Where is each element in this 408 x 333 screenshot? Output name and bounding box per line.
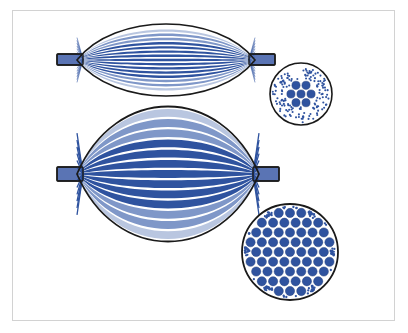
interstitial-dot	[291, 108, 293, 110]
interstitial-dot	[283, 295, 285, 297]
muscle-fiber-dot	[302, 218, 311, 227]
interstitial-dot	[322, 96, 324, 98]
interstitial-dot	[316, 97, 318, 99]
interstitial-dot	[322, 85, 324, 87]
interstitial-dot	[296, 78, 298, 80]
interstitial-dot	[282, 86, 284, 88]
interstitial-dot	[324, 89, 326, 91]
muscle-fiber-dot	[319, 228, 328, 237]
muscle-fiber-dot	[302, 277, 311, 286]
muscle-fiber-dot	[257, 238, 266, 247]
interstitial-dot	[265, 289, 267, 291]
interstitial-dot	[325, 103, 327, 105]
muscle-fiber-dot	[292, 81, 300, 89]
interstitial-dot	[299, 108, 301, 110]
interstitial-dot	[310, 71, 312, 73]
interstitial-dot	[317, 105, 319, 107]
interstitial-dot	[314, 103, 316, 105]
muscle-hypertrophy-diagram: Skeletal muscle hypertrophy comparison d…	[0, 0, 408, 333]
interstitial-dot	[287, 103, 289, 105]
muscle-fiber-dot	[285, 267, 294, 276]
muscle-fiber-dot	[268, 238, 277, 247]
interstitial-dot	[324, 87, 326, 89]
muscle-fiber-dot	[252, 267, 261, 276]
interstitial-dot	[304, 74, 306, 76]
muscle-fiber-dot	[252, 247, 261, 256]
interstitial-dot	[284, 73, 286, 75]
interstitial-dot	[280, 99, 282, 101]
interstitial-dot	[270, 212, 272, 214]
interstitial-dot	[321, 93, 323, 95]
interstitial-dot	[319, 89, 321, 91]
muscle-fiber-dot	[268, 277, 277, 286]
interstitial-dot	[313, 289, 315, 291]
interstitial-dot	[287, 74, 289, 76]
interstitial-dot	[313, 287, 315, 289]
interstitial-dot	[298, 116, 300, 118]
interstitial-dot	[279, 110, 281, 112]
interstitial-dot	[287, 73, 289, 75]
interstitial-dot	[246, 247, 248, 249]
interstitial-dot	[295, 116, 297, 118]
interstitial-dot	[264, 215, 266, 217]
muscle-fiber-dot	[285, 286, 294, 295]
interstitial-dot	[281, 104, 283, 106]
interstitial-dot	[287, 77, 289, 79]
interstitial-dot	[327, 98, 329, 100]
interstitial-dot	[326, 94, 328, 96]
interstitial-dot	[292, 111, 294, 113]
muscle-fiber-dot	[291, 257, 300, 266]
interstitial-dot	[290, 106, 292, 108]
interstitial-dot	[275, 100, 277, 102]
interstitial-dot	[331, 248, 333, 250]
interstitial-dot	[283, 103, 285, 105]
interstitial-dot	[288, 85, 290, 87]
interstitial-dot	[245, 254, 247, 256]
interstitial-dot	[303, 112, 305, 114]
interstitial-dot	[322, 87, 324, 89]
muscle-fiber-dot	[274, 228, 283, 237]
interstitial-dot	[295, 295, 297, 297]
interstitial-dot	[308, 212, 310, 214]
muscle-fiber-dot	[308, 267, 317, 276]
interstitial-dot	[307, 118, 309, 120]
interstitial-dot	[323, 78, 325, 80]
interstitial-dot	[310, 76, 312, 78]
panel-hypertrophied-muscle	[57, 107, 338, 301]
muscle-fiber-dot	[319, 267, 328, 276]
interstitial-dot	[309, 215, 311, 217]
interstitial-dot	[277, 78, 279, 80]
interstitial-dot	[268, 213, 270, 215]
muscle-fiber-dot	[291, 218, 300, 227]
interstitial-dot	[325, 96, 327, 98]
interstitial-dot	[313, 80, 315, 82]
muscle-fiber-dot	[308, 228, 317, 237]
interstitial-dot	[330, 252, 332, 254]
interstitial-dot	[248, 232, 250, 234]
muscle-fiber-dot	[274, 247, 283, 256]
interstitial-dot	[305, 70, 307, 72]
muscle-fiber-dot	[314, 238, 323, 247]
interstitial-dot	[310, 290, 312, 292]
interstitial-dot	[285, 115, 287, 117]
interstitial-dot	[285, 296, 287, 298]
interstitial-dot	[248, 250, 250, 252]
interstitial-dot	[322, 101, 324, 103]
interstitial-dot	[281, 77, 283, 79]
interstitial-dot	[321, 108, 323, 110]
interstitial-dot	[324, 222, 326, 224]
muscle-fiber-dot	[307, 90, 315, 98]
muscle-fiber-dot	[280, 238, 289, 247]
interstitial-dot	[276, 103, 278, 105]
interstitial-dot	[289, 104, 291, 106]
muscle-fiber-dot	[285, 228, 294, 237]
interstitial-dot	[314, 77, 316, 79]
interstitial-dot	[290, 115, 292, 117]
interstitial-dot	[281, 93, 283, 95]
interstitial-dot	[302, 116, 304, 118]
interstitial-dot	[319, 80, 321, 82]
muscle-fiber-dot	[297, 90, 305, 98]
interstitial-dot	[275, 90, 277, 92]
interstitial-dot	[315, 100, 317, 102]
interstitial-dot	[276, 97, 278, 99]
